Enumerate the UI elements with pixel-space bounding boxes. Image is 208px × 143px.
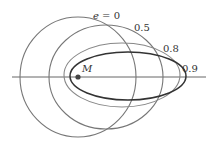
- focus-label: M: [81, 63, 93, 74]
- eccentricity-labels: e = 00.50.80.9: [93, 10, 198, 74]
- eccentricity-label: 0.8: [163, 43, 179, 54]
- eccentricity-diagram: M e = 00.50.80.9: [0, 0, 208, 143]
- eccentricity-label: 0.9: [182, 63, 198, 74]
- conic-curve: [70, 52, 186, 100]
- eccentricity-label: e = 0: [93, 10, 120, 21]
- focus-point: [75, 74, 80, 79]
- eccentricity-label: 0.5: [134, 22, 150, 33]
